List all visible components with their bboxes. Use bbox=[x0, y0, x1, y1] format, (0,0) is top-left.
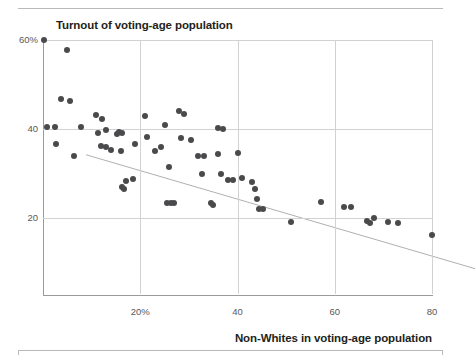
data-point bbox=[152, 148, 158, 154]
bottom-divider bbox=[18, 350, 443, 351]
plot-area bbox=[43, 40, 432, 294]
data-point bbox=[215, 151, 221, 157]
data-point bbox=[254, 196, 260, 202]
x-tick-label: 20% bbox=[131, 306, 150, 317]
y-tick-label: 60% bbox=[4, 34, 38, 45]
data-point bbox=[195, 153, 201, 159]
data-point bbox=[108, 147, 114, 153]
data-point bbox=[118, 148, 124, 154]
data-point bbox=[367, 220, 373, 226]
data-point bbox=[71, 153, 77, 159]
data-point bbox=[288, 219, 294, 225]
data-point bbox=[142, 113, 148, 119]
data-point bbox=[121, 186, 127, 192]
data-point bbox=[235, 150, 241, 156]
data-point bbox=[119, 130, 125, 136]
data-point bbox=[348, 204, 354, 210]
data-point bbox=[171, 200, 177, 206]
chart-title: Turnout of voting-age population bbox=[56, 19, 233, 31]
data-point bbox=[123, 178, 129, 184]
x-tick-label: 40 bbox=[232, 306, 243, 317]
x-tick-label: 80 bbox=[427, 306, 438, 317]
data-point bbox=[218, 171, 224, 177]
top-divider bbox=[18, 8, 443, 9]
x-axis-line bbox=[43, 295, 433, 296]
data-point bbox=[178, 135, 184, 141]
data-point bbox=[199, 171, 205, 177]
data-point bbox=[99, 116, 105, 122]
data-point bbox=[188, 137, 194, 143]
gridline-vertical bbox=[432, 40, 433, 294]
data-point bbox=[103, 127, 109, 133]
data-point bbox=[220, 126, 226, 132]
y-tick-label: 40 bbox=[4, 123, 38, 134]
data-point bbox=[429, 232, 435, 238]
data-point bbox=[201, 153, 207, 159]
data-point bbox=[132, 141, 138, 147]
data-point bbox=[53, 141, 59, 147]
data-point bbox=[230, 177, 236, 183]
gridline-vertical bbox=[140, 40, 141, 294]
data-point bbox=[130, 176, 136, 182]
gridline-vertical bbox=[238, 40, 239, 294]
data-point bbox=[162, 122, 168, 128]
y-tick-label: 20 bbox=[4, 212, 38, 223]
data-point bbox=[158, 144, 164, 150]
data-point bbox=[249, 179, 255, 185]
data-point bbox=[58, 96, 64, 102]
data-point bbox=[181, 111, 187, 117]
data-point bbox=[385, 219, 391, 225]
data-point bbox=[395, 220, 401, 226]
gridline-vertical bbox=[335, 40, 336, 294]
data-point bbox=[41, 37, 47, 43]
x-axis-title: Non-Whites in voting-age population bbox=[235, 332, 432, 344]
data-point bbox=[95, 130, 101, 136]
data-point bbox=[166, 164, 172, 170]
data-point bbox=[67, 98, 73, 104]
data-point bbox=[52, 124, 58, 130]
data-point bbox=[252, 186, 258, 192]
data-point bbox=[318, 199, 324, 205]
data-point bbox=[64, 47, 70, 53]
data-point bbox=[260, 206, 266, 212]
data-point bbox=[210, 202, 216, 208]
data-point bbox=[341, 204, 347, 210]
x-tick-label: 60 bbox=[329, 306, 340, 317]
data-point bbox=[144, 134, 150, 140]
data-point bbox=[239, 175, 245, 181]
